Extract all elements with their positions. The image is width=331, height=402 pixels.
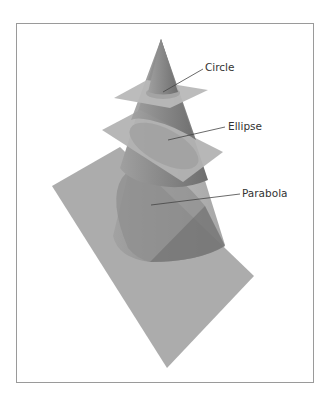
parabola-label: Parabola <box>242 188 288 199</box>
conic-sections-diagram <box>0 0 331 402</box>
ellipse-label: Ellipse <box>228 121 262 132</box>
circle-label: Circle <box>205 62 235 73</box>
